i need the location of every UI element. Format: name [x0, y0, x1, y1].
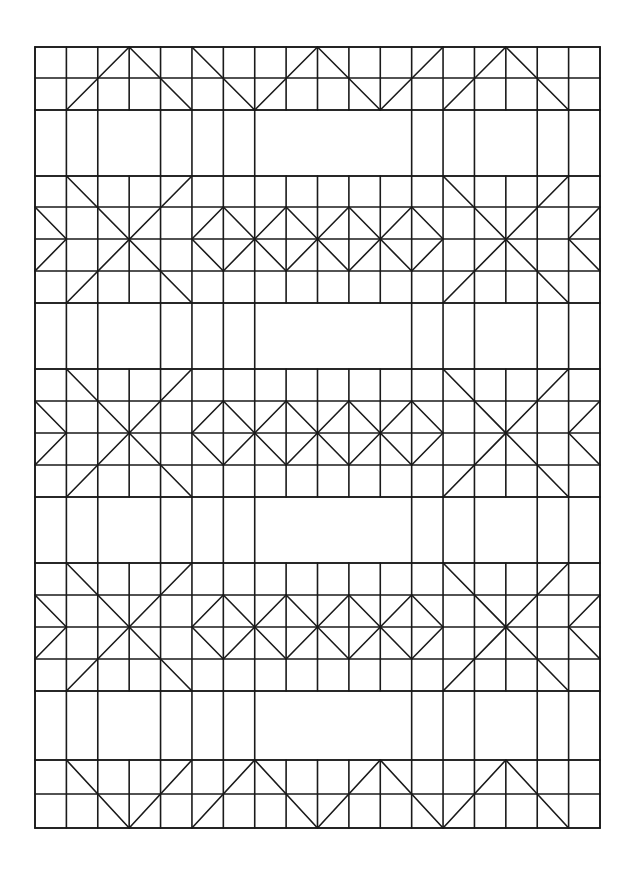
half-diamond-edge [569, 595, 600, 627]
diamond-edge [223, 627, 254, 659]
diamond-edge [286, 433, 317, 465]
diamond-edge [412, 595, 443, 627]
diamond-edge [349, 401, 380, 433]
diamond-edge [255, 207, 286, 239]
quilt-pattern-drawing [0, 0, 634, 871]
diamond-edge [380, 595, 411, 627]
diamond-edge [412, 207, 443, 239]
diamond-edge [318, 433, 349, 465]
diamond-edge [223, 401, 254, 433]
diamond-edge [255, 433, 286, 465]
diamond-edge [255, 627, 286, 659]
diamond-edge [380, 239, 411, 271]
diamond-edge [318, 239, 349, 271]
diamond-edge [349, 239, 380, 271]
diamond-edge [318, 401, 349, 433]
diamond-edge [380, 401, 411, 433]
diamond-edge [349, 627, 380, 659]
diamond-edge [412, 433, 443, 465]
diamond-edge [380, 627, 411, 659]
diamond-edge [192, 207, 223, 239]
diamond-edge [286, 239, 317, 271]
diamond-edge [349, 595, 380, 627]
half-diamond-edge [35, 239, 66, 271]
diamond-edge [286, 207, 317, 239]
half-diamond-edge [569, 239, 600, 271]
diamond-edge [318, 207, 349, 239]
diamond-edge [223, 433, 254, 465]
half-diamond-edge [35, 433, 66, 465]
quilt-grid-lines [35, 47, 600, 828]
diamond-edge [380, 207, 411, 239]
diamond-edge [349, 207, 380, 239]
diamond-edge [255, 401, 286, 433]
diamond-edge [223, 239, 254, 271]
diamond-edge [412, 401, 443, 433]
half-diamond-edge [569, 433, 600, 465]
half-diamond-edge [569, 207, 600, 239]
half-diamond-edge [35, 401, 66, 433]
diamond-edge [255, 239, 286, 271]
diamond-edge [192, 433, 223, 465]
diamond-edge [318, 627, 349, 659]
diamond-edge [349, 433, 380, 465]
diamond-edge [192, 595, 223, 627]
diamond-edge [286, 595, 317, 627]
half-diamond-edge [35, 627, 66, 659]
diamond-edge [412, 627, 443, 659]
half-diamond-edge [569, 401, 600, 433]
diamond-edge [380, 433, 411, 465]
diamond-edge [255, 595, 286, 627]
diamond-edge [223, 207, 254, 239]
diamond-edge [318, 595, 349, 627]
half-diamond-edge [35, 595, 66, 627]
diamond-edge [286, 627, 317, 659]
diamond-edge [286, 401, 317, 433]
half-diamond-edge [35, 207, 66, 239]
diamond-edge [223, 595, 254, 627]
diamond-edge [192, 401, 223, 433]
diamond-edge [192, 239, 223, 271]
half-diamond-edge [569, 627, 600, 659]
diamond-edge [412, 239, 443, 271]
diamond-edge [192, 627, 223, 659]
